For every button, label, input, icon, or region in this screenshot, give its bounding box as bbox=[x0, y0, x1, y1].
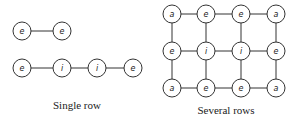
diagram-canvas: eeeiieSingle rowaeeaeiieaeeaSeveral rows bbox=[0, 0, 302, 120]
several-rows-caption: Several rows bbox=[197, 104, 254, 116]
node-label: a bbox=[170, 84, 175, 93]
single-row-diagram: eeeiieSingle row bbox=[13, 22, 142, 111]
node-a: a bbox=[267, 5, 285, 23]
node-a: a bbox=[267, 79, 285, 97]
node-label: e bbox=[204, 84, 209, 93]
single-row-caption: Single row bbox=[53, 99, 101, 111]
node-label: e bbox=[20, 64, 25, 73]
node-a: a bbox=[163, 5, 181, 23]
node-label: e bbox=[131, 64, 136, 73]
node-e: e bbox=[53, 22, 71, 40]
node-label: e bbox=[204, 10, 209, 19]
node-label: e bbox=[239, 10, 244, 19]
node-label: e bbox=[60, 27, 65, 36]
node-e: e bbox=[13, 59, 31, 77]
node-label: a bbox=[274, 10, 279, 19]
node-label: a bbox=[170, 10, 175, 19]
node-e: e bbox=[197, 79, 215, 97]
node-e: e bbox=[163, 42, 181, 60]
node-label: e bbox=[274, 47, 279, 56]
node-label: e bbox=[170, 47, 175, 56]
node-i: i bbox=[53, 59, 71, 77]
node-label: a bbox=[274, 84, 279, 93]
node-i: i bbox=[197, 42, 215, 60]
node-i: i bbox=[88, 59, 106, 77]
node-e: e bbox=[232, 79, 250, 97]
several-rows-diagram: aeeaeiieaeeaSeveral rows bbox=[163, 5, 285, 116]
node-e: e bbox=[124, 59, 142, 77]
node-e: e bbox=[197, 5, 215, 23]
node-e: e bbox=[232, 5, 250, 23]
node-label: e bbox=[239, 84, 244, 93]
node-label: e bbox=[20, 27, 25, 36]
node-e: e bbox=[13, 22, 31, 40]
node-i: i bbox=[232, 42, 250, 60]
node-e: e bbox=[267, 42, 285, 60]
node-a: a bbox=[163, 79, 181, 97]
